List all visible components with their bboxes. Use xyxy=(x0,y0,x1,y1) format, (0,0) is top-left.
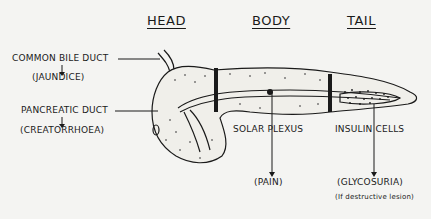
label-solar-plexus: SOLAR PLEXUS xyxy=(233,125,303,134)
header-head: HEAD xyxy=(147,14,186,27)
head-body-divider xyxy=(214,68,218,112)
label-jaundice: (JAUNDICE) xyxy=(32,73,85,82)
pancreas-outline xyxy=(152,67,417,163)
header-body: BODY xyxy=(252,14,290,27)
label-pain: (PAIN) xyxy=(254,178,283,187)
label-common-bile-duct: COMMON BILE DUCT xyxy=(12,54,108,63)
bile-duct-tube-2 xyxy=(164,50,174,70)
label-pancreatic-duct: PANCREATIC DUCT xyxy=(21,106,108,115)
header-tail: TAIL xyxy=(347,14,376,27)
label-insulin-cells: INSULIN CELLS xyxy=(335,125,404,134)
label-creatorrhoea: (CREATORRHOEA) xyxy=(20,126,104,135)
bile-duct-tube xyxy=(158,53,170,72)
label-glycosuria: (GLYCOSURIA) xyxy=(337,178,403,187)
label-glycosuria-note: (If destructive lesion) xyxy=(335,194,414,201)
body-tail-divider xyxy=(328,74,332,112)
